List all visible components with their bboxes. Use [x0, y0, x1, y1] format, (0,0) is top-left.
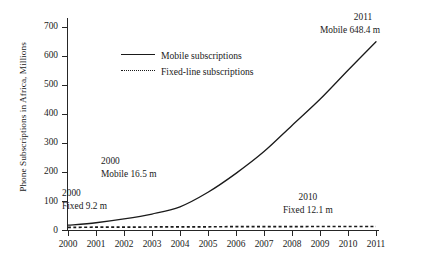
annotation-year: 2000	[62, 187, 107, 200]
series-line-fixed	[68, 226, 376, 227]
annotation-value: Mobile 648.4 m	[320, 24, 380, 37]
legend-item-mobile: Mobile subscriptions	[121, 47, 253, 63]
annotation-fixed-2010: 2010 Fixed 12.1 m	[283, 191, 333, 216]
annotation-value: Fixed 9.2 m	[62, 200, 107, 213]
annotation-year: 2000	[101, 155, 156, 168]
annotation-value: Fixed 12.1 m	[283, 204, 333, 217]
annotation-mobile-2000: 2000 Mobile 16.5 m	[101, 155, 156, 180]
legend-swatch-solid-icon	[121, 51, 155, 59]
chart-figure: Phone Subscriptions in Africa, Millions …	[0, 0, 424, 266]
annotation-year: 2010	[283, 191, 333, 204]
series-plot	[0, 0, 424, 266]
annotation-year: 2011	[320, 11, 380, 24]
legend-label-mobile: Mobile subscriptions	[161, 50, 242, 61]
annotation-value: Mobile 16.5 m	[101, 168, 156, 181]
legend-label-fixed: Fixed-line subscriptions	[161, 66, 253, 77]
legend-item-fixed: Fixed-line subscriptions	[121, 63, 253, 79]
legend-swatch-dotted-icon	[121, 67, 155, 75]
annotation-mobile-2011: 2011 Mobile 648.4 m	[320, 11, 380, 36]
chart-legend: Mobile subscriptions Fixed-line subscrip…	[121, 47, 253, 79]
annotation-fixed-2000: 2000 Fixed 9.2 m	[62, 187, 107, 212]
